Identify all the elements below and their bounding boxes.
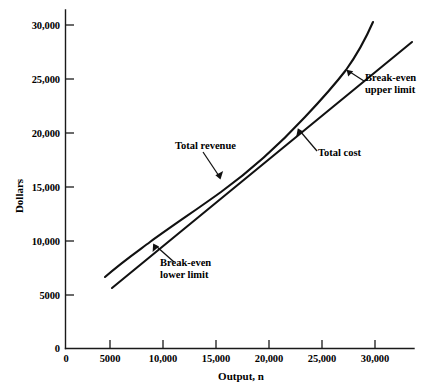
annotation-break-even-lower: Break-even lower limit xyxy=(160,257,211,282)
x-tick-label-25000: 25,000 xyxy=(308,353,336,364)
annotation-break-even-lower-line2: lower limit xyxy=(160,269,211,281)
y-axis-title: Dollars xyxy=(13,179,25,213)
y-tick-marks xyxy=(66,25,75,295)
leader-total-revenue xyxy=(203,152,223,180)
x-tick-label-10000: 10,000 xyxy=(149,353,177,364)
leader-total-cost xyxy=(296,128,317,151)
x-axis-title: Output, n xyxy=(218,370,264,382)
x-tick-label-5000: 5000 xyxy=(100,353,121,364)
annotation-break-even-upper-line1: Break-even xyxy=(365,72,416,84)
y-tick-label-5000: 5000 xyxy=(8,290,60,301)
annotation-break-even-upper-line2: upper limit xyxy=(365,84,416,96)
x-tick-marks xyxy=(110,340,375,349)
annotation-break-even-lower-line1: Break-even xyxy=(160,257,211,269)
y-tick-label-25000: 25,000 xyxy=(8,74,60,85)
y-tick-label-30000: 30,000 xyxy=(8,20,60,31)
annotation-total-cost: Total cost xyxy=(318,147,361,159)
break-even-chart: 0 5000 10,000 15,000 20,000 25,000 30,00… xyxy=(0,0,422,392)
annotation-break-even-upper: Break-even upper limit xyxy=(365,72,416,97)
annotation-total-revenue: Total revenue xyxy=(175,140,236,152)
y-tick-label-10000: 10,000 xyxy=(8,236,60,247)
y-tick-label-0: 0 xyxy=(8,343,60,354)
leader-break-even-upper xyxy=(347,70,364,81)
x-tick-label-20000: 20,000 xyxy=(255,353,283,364)
x-tick-label-15000: 15,000 xyxy=(202,353,230,364)
x-tick-label-0: 0 xyxy=(63,353,68,364)
y-tick-label-20000: 20,000 xyxy=(8,128,60,139)
x-tick-label-30000: 30,000 xyxy=(361,353,389,364)
plot-area xyxy=(0,0,422,392)
